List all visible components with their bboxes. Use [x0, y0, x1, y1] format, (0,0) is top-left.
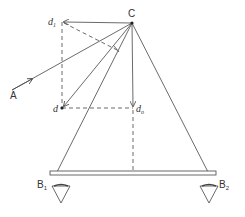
ray-a-arrow	[12, 79, 32, 90]
ray-c-to-d	[64, 23, 132, 106]
label-c: C	[128, 8, 135, 19]
label-b2: B2	[219, 179, 230, 191]
point-d	[60, 106, 63, 109]
ray-c-to-b2	[132, 23, 208, 172]
label-a: A	[10, 90, 17, 101]
ray-c-to-d0	[132, 23, 133, 106]
ray-c-to-b1	[57, 23, 132, 172]
eye-b2-icon	[200, 186, 218, 203]
label-d: d	[53, 103, 59, 114]
eye-b1-icon	[52, 186, 70, 203]
label-d0: do	[136, 103, 144, 115]
plate	[50, 171, 216, 175]
point-c	[130, 21, 133, 24]
ray-c-to-d1	[64, 22, 132, 23]
label-b1: B1	[37, 179, 48, 191]
label-d1: d1	[48, 16, 56, 28]
construction-lines	[62, 22, 133, 172]
optics-diagram: C A d d1 do B1 B2	[0, 0, 245, 217]
